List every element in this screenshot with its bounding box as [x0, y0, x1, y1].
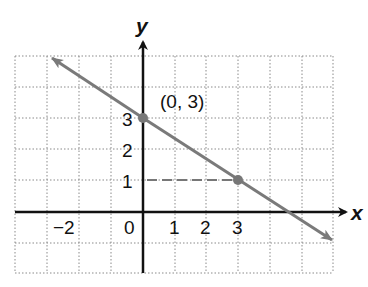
x-tick-0: 0 — [124, 217, 135, 238]
x-tick-3: 3 — [232, 217, 243, 238]
grid — [15, 56, 333, 273]
point-label: (0, 3) — [160, 91, 204, 112]
y-tick-2: 2 — [122, 140, 133, 161]
x-axis-label: x — [350, 201, 364, 224]
y-tick-3: 3 — [122, 109, 133, 130]
point-0-3 — [138, 113, 148, 123]
coordinate-plane: y x (0, 3) 3 2 1 −2 0 1 2 3 — [0, 0, 368, 287]
x-tick-1: 1 — [169, 217, 180, 238]
y-tick-1: 1 — [122, 171, 133, 192]
x-tick-2: 2 — [200, 217, 211, 238]
y-axis-label: y — [135, 14, 149, 37]
x-tick-neg2: −2 — [53, 217, 75, 238]
point-3-1 — [233, 175, 243, 185]
